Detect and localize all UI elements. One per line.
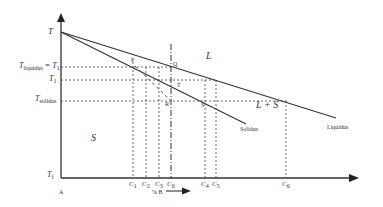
label-liquidus: Liquidus bbox=[327, 124, 348, 130]
label-c2: C2 bbox=[142, 181, 150, 189]
label-c5: C5 bbox=[212, 181, 220, 189]
label-t1: T1 bbox=[49, 75, 56, 84]
point-r: R bbox=[165, 101, 169, 107]
tf-sub: f bbox=[51, 174, 53, 180]
point-s: S bbox=[201, 102, 204, 108]
label-origin-a: A bbox=[59, 189, 63, 195]
c6-sub: 6 bbox=[287, 183, 290, 189]
label-tf: Tf bbox=[47, 171, 53, 180]
region-mushy: L + S bbox=[256, 100, 278, 110]
liquidus-line bbox=[61, 32, 336, 118]
t-liquidus-suffix: = T bbox=[43, 61, 57, 70]
label-c3: C3 bbox=[155, 181, 163, 189]
label-c6: C6 bbox=[282, 181, 290, 189]
c2-sub: 2 bbox=[147, 183, 150, 189]
solidus-line bbox=[61, 32, 246, 124]
x-axis-arrow-icon bbox=[349, 174, 359, 182]
c3-sub: 3 bbox=[160, 183, 163, 189]
phase-diagram: T Tliquidus = T1 T1 Tsolidus Tf A % B L … bbox=[0, 0, 383, 207]
c4-sub: 4 bbox=[206, 183, 209, 189]
label-solidus: Solidus bbox=[240, 126, 258, 132]
label-percent-b: % B bbox=[152, 189, 163, 195]
label-c4: C4 bbox=[201, 181, 209, 189]
t-solidus-sub: solidus bbox=[39, 98, 56, 104]
label-t-top: T bbox=[48, 27, 53, 36]
label-c0: C0 bbox=[167, 181, 175, 189]
c0-sub: 0 bbox=[172, 183, 175, 189]
label-t-solidus: Tsolidus bbox=[35, 95, 56, 104]
point-t: T bbox=[177, 82, 181, 88]
label-t-liquidus: Tliquidus = T1 bbox=[19, 62, 60, 71]
t-liquidus-sub: liquidus bbox=[23, 65, 42, 71]
c1-sub: 1 bbox=[134, 183, 137, 189]
t-liquidus-suffix-sub: 1 bbox=[57, 65, 60, 71]
t1-sub: 1 bbox=[53, 78, 56, 84]
point-q: Q bbox=[173, 61, 177, 67]
region-liquid: L bbox=[206, 51, 212, 61]
point-p: P bbox=[131, 57, 134, 63]
phase-diagram-canvas bbox=[0, 0, 383, 207]
percent-b-arrow-icon bbox=[182, 188, 191, 195]
c5-sub: 5 bbox=[217, 183, 220, 189]
region-solid: S bbox=[91, 133, 96, 143]
label-c1: C1 bbox=[129, 181, 137, 189]
y-axis-arrow-icon bbox=[57, 13, 65, 22]
